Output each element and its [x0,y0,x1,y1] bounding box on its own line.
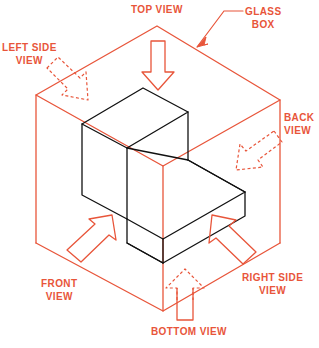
glass-box-outline [36,26,280,311]
bottom-view-arrow-shaft [177,288,193,320]
label-bottom-view: BOTTOM VIEW [151,326,227,338]
label-right-side-line2: VIEW [242,284,303,297]
glass-box-diagram: TOP VIEW GLASS BOX LEFT SIDE VIEW BACK V… [0,0,319,348]
label-glass-box-line2: BOX [245,18,281,31]
object-slab-bottom-edge [127,243,163,263]
label-front-view: FRONT VIEW [41,277,77,303]
label-left-side-line1: LEFT SIDE [2,41,57,54]
object-slab-right-faces [163,192,245,263]
glass-box-leader-arrowhead [197,37,208,47]
object-seat-back-edge [188,160,245,192]
label-right-side-view: RIGHT SIDE VIEW [242,271,303,297]
label-glass-box-line1: GLASS [245,5,281,18]
back-view-arrow [236,131,282,170]
label-front-line2: VIEW [41,290,77,303]
front-view-arrow [67,215,116,262]
label-left-side-line2: VIEW [2,54,57,67]
label-right-side-line1: RIGHT SIDE [242,271,303,284]
label-glass-box: GLASS BOX [245,5,281,31]
object-left-face [82,124,127,219]
object-slab-front-faces [127,219,163,263]
right-side-view-arrow [209,215,256,264]
bottom-view-arrow-head [166,269,204,300]
label-back-view: BACK VIEW [284,111,315,137]
label-back-line1: BACK [284,111,315,124]
object-seat-face [127,148,245,239]
label-front-line1: FRONT [41,277,77,290]
label-top-view: TOP VIEW [131,4,183,16]
top-view-arrow [142,41,174,90]
label-back-line2: VIEW [284,124,315,137]
object-top-face [82,88,188,148]
label-left-side-view: LEFT SIDE VIEW [2,41,57,67]
